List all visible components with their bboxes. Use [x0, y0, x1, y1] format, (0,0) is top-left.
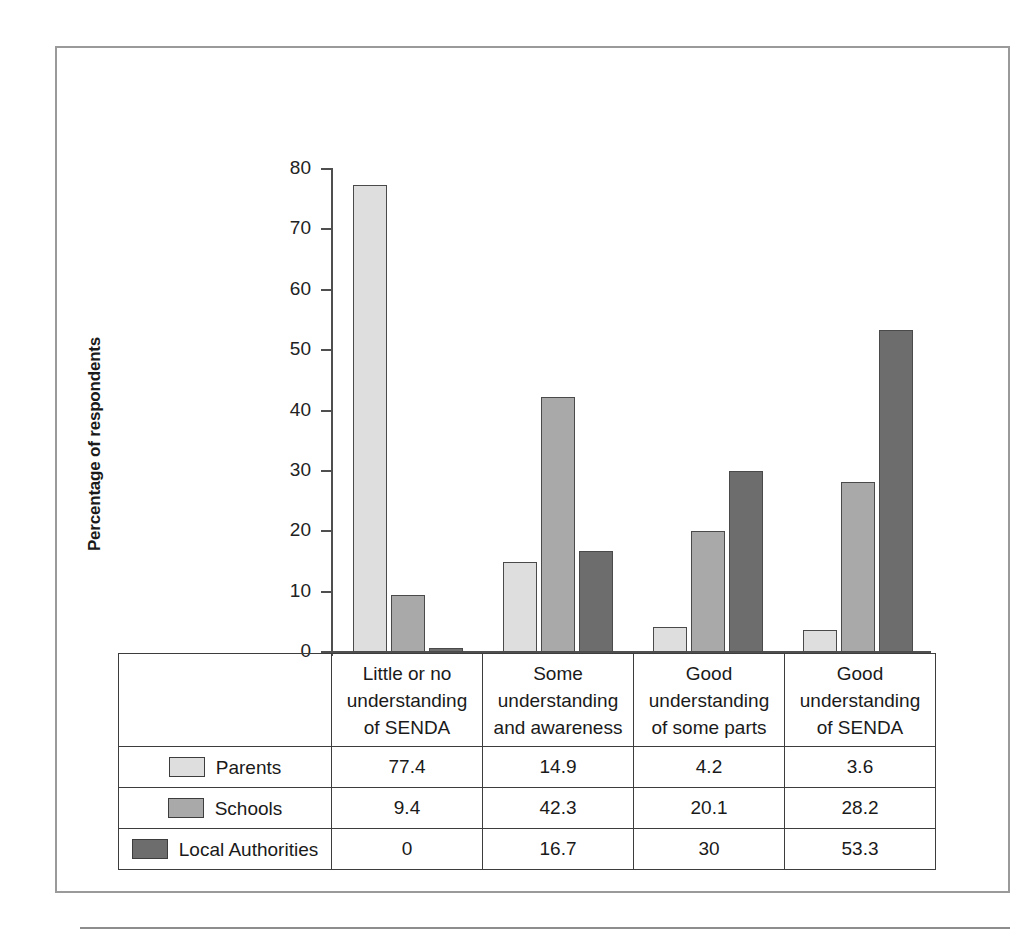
y-axis-tick-label: 10 [251, 581, 311, 600]
category-header-cell: Goodunderstandingof SENDA [785, 654, 936, 747]
bar-parents[interactable] [353, 185, 387, 652]
bar-parents[interactable] [503, 562, 537, 652]
y-axis-tick-label: 70 [251, 218, 311, 237]
y-axis-title: Percentage of respondents [85, 329, 105, 559]
y-axis-tick [321, 530, 332, 532]
legend-entry[interactable]: Schools [119, 788, 332, 829]
category-header-row: Little or nounderstandingof SENDASomeund… [119, 654, 936, 747]
bar-group [783, 168, 933, 652]
bar-schools[interactable] [391, 595, 425, 652]
category-header-line: of SENDA [332, 714, 482, 741]
category-header-line: Little or no [332, 660, 482, 687]
y-axis-tick-label: 60 [251, 279, 311, 298]
bar-local-authorities[interactable] [879, 330, 913, 652]
category-header-line: understanding [483, 687, 633, 714]
bar-group [333, 168, 483, 652]
y-axis-tick [321, 591, 332, 593]
category-header-line: Good [785, 660, 935, 687]
y-axis-tick [321, 410, 332, 412]
data-value-cell: 30 [634, 829, 785, 870]
bar-schools[interactable] [841, 482, 875, 652]
category-header-cell: Someunderstandingand awareness [483, 654, 634, 747]
chart-plot-area: Percentage of respondents 01020304050607… [55, 134, 1010, 893]
bar-schools[interactable] [691, 531, 725, 652]
legend-swatch-icon [169, 757, 205, 777]
legend-label: Parents [216, 756, 281, 777]
y-axis-tick-label: 50 [251, 339, 311, 358]
table-row: Schools9.442.320.128.2 [119, 788, 936, 829]
data-value-cell: 0 [332, 829, 483, 870]
bar-parents[interactable] [803, 630, 837, 652]
legend-label: Local Authorities [179, 838, 318, 859]
data-table: Little or nounderstandingof SENDASomeund… [118, 653, 936, 870]
y-axis-tick [321, 470, 332, 472]
y-axis-tick-label: 80 [251, 158, 311, 177]
bar-schools[interactable] [541, 397, 575, 652]
table-row: Local Authorities016.73053.3 [119, 829, 936, 870]
data-value-cell: 9.4 [332, 788, 483, 829]
category-header-line: Good [634, 660, 784, 687]
legend-swatch-icon [132, 839, 168, 859]
table-row: Parents77.414.94.23.6 [119, 747, 936, 788]
y-axis-tick-label: 20 [251, 520, 311, 539]
category-header-line: Some [483, 660, 633, 687]
bar-local-authorities[interactable] [729, 471, 763, 652]
y-axis-tick-label: 30 [251, 460, 311, 479]
category-header-line: understanding [634, 687, 784, 714]
bar-local-authorities[interactable] [579, 551, 613, 652]
legend-swatch-icon [168, 798, 204, 818]
data-value-cell: 20.1 [634, 788, 785, 829]
y-axis-tick-label: 40 [251, 400, 311, 419]
legend-entry[interactable]: Local Authorities [119, 829, 332, 870]
y-axis-tick [321, 228, 332, 230]
bar-group [483, 168, 633, 652]
legend-label: Schools [215, 797, 283, 818]
category-header-line: and awareness [483, 714, 633, 741]
bar-parents[interactable] [653, 627, 687, 652]
data-value-cell: 53.3 [785, 829, 936, 870]
category-header-line: understanding [785, 687, 935, 714]
bar-local-authorities[interactable] [429, 648, 463, 652]
data-value-cell: 3.6 [785, 747, 936, 788]
data-value-cell: 16.7 [483, 829, 634, 870]
legend-entry[interactable]: Parents [119, 747, 332, 788]
data-value-cell: 14.9 [483, 747, 634, 788]
category-header-line: of some parts [634, 714, 784, 741]
data-value-cell: 77.4 [332, 747, 483, 788]
y-axis-tick [321, 168, 332, 170]
category-header-line: understanding [332, 687, 482, 714]
category-header-cell: Little or nounderstandingof SENDA [332, 654, 483, 747]
footer-rule [80, 927, 1010, 929]
data-value-cell: 4.2 [634, 747, 785, 788]
table-corner-spacer [119, 654, 332, 747]
category-header-line: of SENDA [785, 714, 935, 741]
category-header-cell: Goodunderstandingof some parts [634, 654, 785, 747]
data-value-cell: 28.2 [785, 788, 936, 829]
data-value-cell: 42.3 [483, 788, 634, 829]
y-axis-tick [321, 289, 332, 291]
y-axis-tick [321, 349, 332, 351]
bar-group [633, 168, 783, 652]
